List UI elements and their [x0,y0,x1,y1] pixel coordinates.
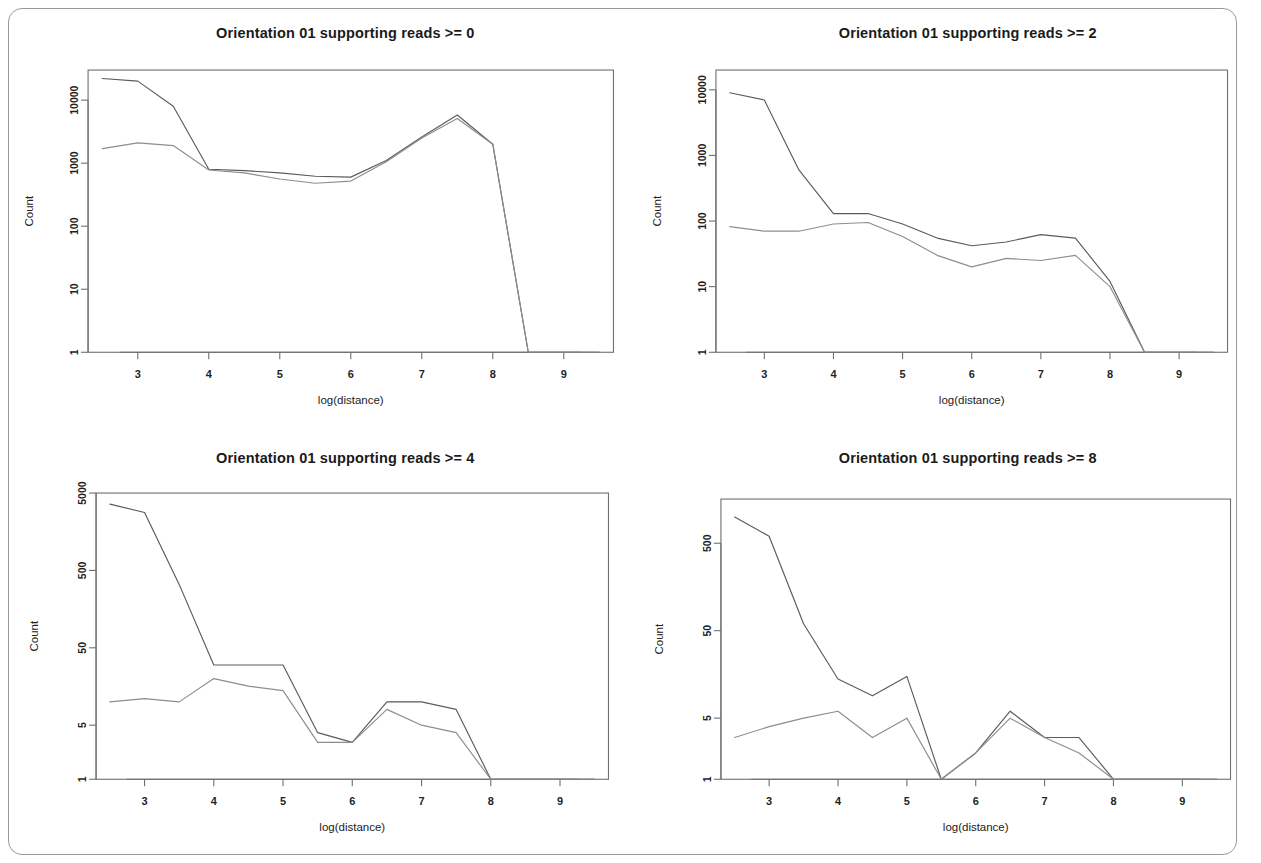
y-tick-label: 10 [68,283,80,295]
plot-box [715,70,1227,352]
x-tick-label: 4 [830,368,837,380]
x-tick-label: 4 [211,796,218,808]
y-tick-label: 5 [701,715,712,721]
series-line-series-2 [102,119,599,353]
chart-svg: Orientation 01 supporting reads >= 83456… [631,431,1261,863]
x-tick-label: 6 [349,796,355,808]
y-tick-label: 500 [701,535,712,553]
x-axis-label: log(distance) [938,394,1004,406]
plot-box [720,499,1230,779]
series-line-series-1 [734,517,1216,779]
plot-title: Orientation 01 supporting reads >= 0 [216,25,474,41]
x-tick-label: 8 [1106,368,1112,380]
y-tick-label: 5000 [76,482,88,506]
x-tick-label: 8 [490,368,496,380]
y-tick-label: 50 [76,642,88,654]
y-tick-label: 1000 [68,151,80,175]
y-axis-label: Count [650,195,662,226]
x-tick-label: 8 [488,796,494,808]
x-tick-label: 9 [557,796,563,808]
x-tick-label: 7 [418,796,424,808]
series-line-series-1 [110,504,595,779]
chart-svg: Orientation 01 supporting reads >= 23456… [631,0,1261,431]
chart-panel-top-left: Orientation 01 supporting reads >= 03456… [0,0,631,431]
y-axis-label: Count [23,195,35,226]
x-tick-label: 9 [561,368,567,380]
chart-panel-bottom-right: Orientation 01 supporting reads >= 83456… [631,431,1261,863]
x-tick-label: 5 [899,368,905,380]
y-tick-label: 10000 [696,75,707,104]
series-line-series-1 [102,79,599,353]
y-axis-label: Count [652,623,664,654]
x-tick-label: 5 [280,796,286,808]
y-tick-label: 100 [68,217,80,235]
y-tick-label: 50 [701,625,712,637]
chart-panel-top-right: Orientation 01 supporting reads >= 23456… [631,0,1261,431]
y-tick-label: 10000 [68,85,80,114]
x-tick-label: 4 [206,368,213,380]
x-tick-label: 7 [1041,796,1047,808]
x-tick-label: 6 [348,368,354,380]
series-line-series-1 [729,93,1213,352]
x-axis-label: log(distance) [942,822,1008,834]
series-line-series-2 [729,222,1213,352]
x-tick-label: 3 [135,368,141,380]
plot-box [96,493,608,779]
x-axis-label: log(distance) [319,822,385,834]
y-tick-label: 100 [696,212,707,230]
y-axis-label: Count [28,620,40,651]
plot-title: Orientation 01 supporting reads >= 8 [838,450,1096,466]
figure-panel-grid: Orientation 01 supporting reads >= 03456… [0,0,1261,863]
x-tick-label: 3 [761,368,767,380]
y-tick-label: 1 [76,777,88,783]
x-tick-label: 6 [968,368,974,380]
y-tick-label: 500 [76,562,88,580]
chart-svg: Orientation 01 supporting reads >= 03456… [0,0,631,431]
plot-title: Orientation 01 supporting reads >= 4 [216,450,474,466]
x-tick-label: 9 [1176,368,1182,380]
x-tick-label: 7 [1037,368,1043,380]
x-tick-label: 3 [141,796,147,808]
y-tick-label: 1 [68,349,80,355]
x-tick-label: 3 [766,796,772,808]
x-axis-label: log(distance) [318,394,384,406]
y-tick-label: 1000 [696,144,707,168]
y-tick-label: 5 [76,722,88,728]
x-tick-label: 8 [1110,796,1116,808]
x-tick-label: 5 [903,796,909,808]
y-tick-label: 1 [696,349,707,355]
x-tick-label: 9 [1179,796,1185,808]
y-tick-label: 10 [696,281,707,293]
chart-panel-bottom-left: Orientation 01 supporting reads >= 43456… [0,431,631,863]
series-line-series-2 [110,679,595,780]
x-tick-label: 5 [277,368,283,380]
x-tick-label: 6 [972,796,978,808]
x-tick-label: 4 [834,796,841,808]
chart-svg: Orientation 01 supporting reads >= 43456… [0,431,631,863]
plot-title: Orientation 01 supporting reads >= 2 [838,25,1096,41]
y-tick-label: 1 [701,777,712,783]
plot-box [88,70,613,352]
series-line-series-2 [734,712,1216,780]
x-tick-label: 7 [419,368,425,380]
